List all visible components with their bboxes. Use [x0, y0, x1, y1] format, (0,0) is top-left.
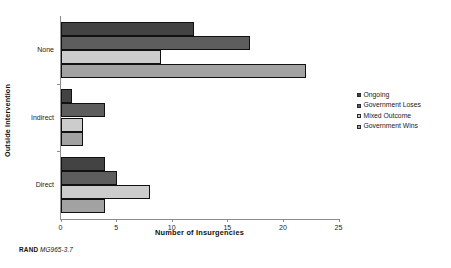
x-axis-tick: [116, 219, 117, 222]
bar: [61, 22, 194, 36]
x-axis-tick: [283, 219, 284, 222]
legend-item[interactable]: Government Wins: [357, 122, 447, 133]
x-axis-line: [60, 219, 339, 220]
legend-swatch-icon: [357, 114, 361, 118]
legend-swatch-icon: [357, 104, 361, 108]
legend-item-label: Government Loses: [364, 102, 421, 109]
bar: [61, 118, 83, 132]
y-axis-title-text: Outside Intervention: [3, 84, 12, 157]
plot-area: 0510152025: [60, 16, 338, 219]
legend-item-label: Mixed Outcome: [364, 113, 412, 120]
legend-item[interactable]: Mixed Outcome: [357, 111, 447, 122]
y-axis-tick: [57, 151, 60, 152]
chart-legend: OngoingGovernment LosesMixed OutcomeGove…: [357, 90, 447, 132]
y-axis-category-label: Indirect: [12, 114, 54, 121]
figure-container: Outside Intervention NoneIndirectDirect …: [0, 0, 451, 268]
footer-publisher: RAND: [19, 246, 38, 253]
bar: [61, 89, 72, 103]
y-axis-category-labels: NoneIndirectDirect: [14, 14, 58, 219]
y-axis-category-label: None: [12, 46, 54, 53]
bar: [61, 103, 105, 117]
bar: [61, 64, 306, 78]
footer-figure-code: MG965-3.7: [40, 246, 73, 253]
y-axis-category-label: Direct: [12, 181, 54, 188]
bar: [61, 36, 250, 50]
legend-swatch-icon: [357, 93, 361, 97]
bar: [61, 185, 150, 199]
x-axis-title: Number of Insurgencies: [60, 228, 339, 237]
legend-swatch-icon: [357, 125, 361, 129]
bar: [61, 171, 117, 185]
figure-footer: RAND MG965-3.7: [19, 246, 73, 253]
x-axis-tick: [61, 219, 62, 222]
y-axis-tick: [57, 84, 60, 85]
x-axis-tick: [172, 219, 173, 222]
bar: [61, 199, 105, 213]
x-axis-tick: [339, 219, 340, 222]
legend-item-label: Ongoing: [364, 92, 390, 99]
legend-item-label: Government Wins: [364, 123, 418, 130]
legend-item[interactable]: Ongoing: [357, 90, 447, 101]
legend-item[interactable]: Government Loses: [357, 101, 447, 112]
x-axis-tick: [227, 219, 228, 222]
bar: [61, 50, 161, 64]
bar: [61, 157, 105, 171]
bar: [61, 132, 83, 146]
